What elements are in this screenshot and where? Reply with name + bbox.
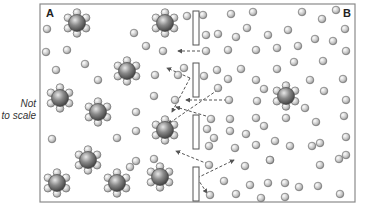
water-molecule xyxy=(243,24,251,32)
water-molecule xyxy=(226,127,234,135)
water-molecule xyxy=(159,47,167,55)
water-molecule xyxy=(142,42,150,50)
water-molecule xyxy=(314,182,322,190)
water-molecule xyxy=(226,115,234,123)
water-molecule xyxy=(150,92,158,100)
water-molecule xyxy=(286,142,294,150)
water-molecule xyxy=(213,66,221,74)
solute-ion xyxy=(49,175,66,192)
region-label-a: A xyxy=(46,7,54,19)
water-molecule xyxy=(318,15,326,23)
water-molecule xyxy=(252,114,260,122)
water-molecule xyxy=(264,179,272,187)
water-molecule xyxy=(132,108,140,116)
water-molecule xyxy=(200,72,208,80)
water-molecule xyxy=(281,179,289,187)
water-molecule xyxy=(273,65,281,73)
water-molecule xyxy=(242,130,250,138)
water-molecule xyxy=(249,8,257,16)
water-molecule xyxy=(52,66,60,74)
water-molecule xyxy=(42,48,50,56)
water-molecule xyxy=(224,75,232,83)
membrane-segment xyxy=(193,115,199,149)
water-molecule xyxy=(252,76,260,84)
water-molecule xyxy=(48,135,56,143)
water-molecule xyxy=(329,37,337,45)
water-molecule xyxy=(271,137,279,145)
water-molecule xyxy=(342,133,350,141)
water-molecule xyxy=(312,118,320,126)
water-molecule xyxy=(180,64,188,72)
osmosis-membrane-diagram: A B xyxy=(0,0,368,215)
water-molecule xyxy=(202,31,210,39)
membrane-segment xyxy=(193,63,199,97)
water-molecule xyxy=(210,134,218,142)
water-molecule xyxy=(319,57,327,65)
water-molecule xyxy=(252,46,260,54)
water-molecule xyxy=(43,25,51,33)
water-molecule xyxy=(342,47,350,55)
water-molecule xyxy=(257,194,265,202)
water-molecule xyxy=(205,142,213,150)
water-molecule xyxy=(264,31,272,39)
water-molecule xyxy=(151,71,159,79)
water-molecule xyxy=(342,151,350,159)
solute-ion xyxy=(157,122,174,139)
solute-ion xyxy=(90,104,107,121)
water-molecule xyxy=(171,96,179,104)
water-molecule xyxy=(301,104,309,112)
water-molecule xyxy=(252,141,260,149)
water-molecule xyxy=(224,46,232,54)
water-molecule xyxy=(227,10,235,18)
water-molecule xyxy=(339,75,347,83)
solute-ion xyxy=(80,152,97,169)
water-molecule xyxy=(295,183,303,191)
water-molecule xyxy=(298,8,306,16)
water-molecule xyxy=(246,181,254,189)
water-molecule xyxy=(183,12,191,20)
water-molecule xyxy=(294,42,302,50)
water-molecule xyxy=(308,142,316,150)
water-molecule xyxy=(225,96,233,104)
water-molecule xyxy=(311,35,319,43)
water-molecule xyxy=(94,76,102,84)
water-molecule xyxy=(340,112,348,120)
water-molecule xyxy=(290,58,298,66)
region-label-b: B xyxy=(343,7,351,19)
water-molecule xyxy=(335,155,343,163)
water-molecule xyxy=(130,29,138,37)
water-molecule xyxy=(341,25,349,33)
water-molecule xyxy=(113,134,121,142)
solute-ion xyxy=(152,169,169,186)
water-molecule xyxy=(63,46,71,54)
water-molecule xyxy=(207,115,215,123)
water-molecule xyxy=(253,97,261,105)
water-molecule xyxy=(232,33,240,41)
solute-ion xyxy=(278,88,295,105)
water-molecule xyxy=(132,157,140,165)
water-molecule xyxy=(220,177,228,185)
water-molecule xyxy=(320,87,328,95)
water-molecule xyxy=(332,6,340,14)
water-molecule xyxy=(232,190,240,198)
solute-ion xyxy=(109,175,126,192)
water-molecule xyxy=(174,71,182,79)
water-molecule xyxy=(241,162,249,170)
solute-ion xyxy=(157,15,174,32)
water-molecule xyxy=(306,76,314,84)
water-molecule xyxy=(284,26,292,34)
water-molecule xyxy=(199,11,207,19)
water-molecule xyxy=(260,122,268,130)
water-molecule xyxy=(281,193,289,201)
water-molecule xyxy=(203,125,211,133)
water-molecule xyxy=(260,85,268,93)
water-molecule xyxy=(266,156,274,164)
water-molecule xyxy=(282,114,290,122)
water-molecule xyxy=(126,163,134,171)
water-molecule xyxy=(150,155,158,163)
water-molecule xyxy=(205,161,213,169)
solute-ion xyxy=(119,63,136,80)
water-molecule xyxy=(214,84,222,92)
water-molecule xyxy=(202,47,210,55)
water-molecule xyxy=(316,139,324,147)
